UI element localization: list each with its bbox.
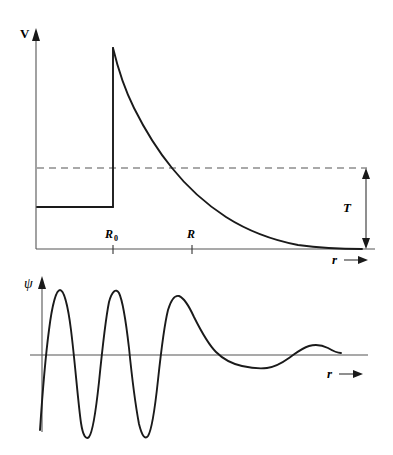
coulomb-tail-curve [113, 48, 362, 249]
gap-label-T: T [343, 200, 352, 215]
v-axis-arrowhead [32, 28, 40, 41]
gap-arrow-head-up [362, 168, 370, 179]
tick-label-r0-subscript: 0 [114, 234, 118, 243]
r-axis-label-top: r [332, 252, 338, 267]
tick-label-r0: R 0 [104, 227, 118, 243]
figure-canvas: V r R 0 R [0, 0, 393, 455]
physics-figure: V r R 0 R [0, 0, 393, 455]
wavefunction-panel: ψ r [24, 276, 368, 438]
r-axis-arrow-top [344, 256, 368, 264]
tick-label-r0-base: R [104, 227, 113, 241]
tick-label-r: R [186, 227, 195, 241]
r-axis-label-bottom: r [327, 366, 333, 381]
psi-axis-label: ψ [24, 276, 33, 291]
kinetic-energy-gap: T [343, 168, 370, 249]
gap-arrow-head-down [362, 238, 370, 249]
r-axis-arrow-bottom [339, 370, 363, 378]
psi-axis-arrowhead [38, 276, 46, 289]
v-axis-label: V [20, 26, 30, 41]
psi-curve [40, 290, 341, 438]
potential-panel: V r R 0 R [20, 26, 375, 267]
